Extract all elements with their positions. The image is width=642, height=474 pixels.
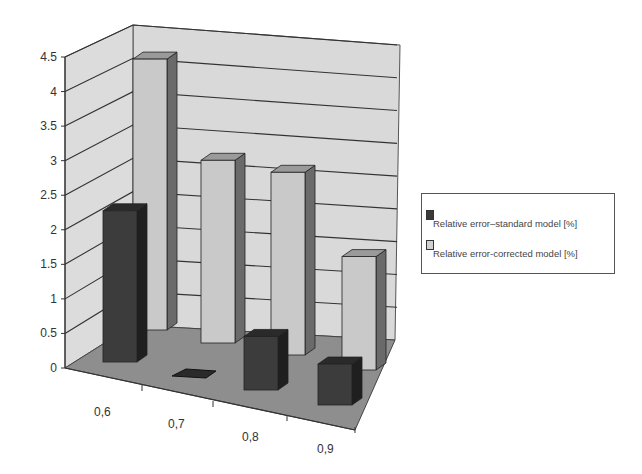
y-tick-label: 2.5	[40, 188, 57, 202]
bar-corrected-model	[201, 153, 245, 343]
x-tick-label: 0,7	[168, 417, 185, 431]
y-tick-label: 0	[50, 361, 57, 375]
y-tick-label: 3	[50, 154, 57, 168]
y-axis-ticks: 00.511.522.533.544.5	[40, 50, 65, 375]
bar-standard-model	[318, 357, 362, 405]
y-tick-label: 2	[50, 223, 57, 237]
x-tick-label: 0,6	[94, 405, 111, 419]
x-tick-label: 0,8	[242, 430, 259, 444]
x-tick-label: 0,9	[317, 442, 334, 456]
y-tick-label: 4	[50, 85, 57, 99]
legend-label: Relative error-corrected model [%]	[433, 248, 578, 259]
bar-standard-model	[244, 329, 288, 390]
y-tick-label: 3.5	[40, 119, 57, 133]
legend-label: Relative error–standard model [%]	[433, 218, 577, 229]
y-tick-label: 0.5	[40, 326, 57, 340]
legend: Relative error–standard model [%] Relati…	[421, 193, 615, 274]
y-tick-label: 4.5	[40, 50, 57, 64]
y-tick-label: 1.5	[40, 257, 57, 271]
bar-standard-model	[103, 204, 147, 362]
bar-corrected-model	[342, 250, 386, 370]
bar-corrected-model	[271, 165, 315, 355]
y-tick-label: 1	[50, 292, 57, 306]
